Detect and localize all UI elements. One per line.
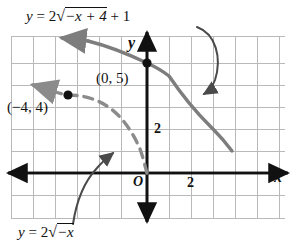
y-tick-2-label: 2 [154, 122, 161, 136]
equation-coefficient-parent: = 2 [28, 224, 48, 240]
graph-figure: y = 2√−x + 4 + 1 y = 2√−x (0, 5) (−4, 4)… [0, 0, 294, 251]
equation-coefficient: = 2 [36, 8, 56, 24]
origin-label: O [133, 175, 143, 189]
point-0-5 [142, 58, 151, 67]
pointer-top-arrow [197, 27, 218, 94]
radical-bar-icon [65, 7, 107, 8]
x-axis-label: x [274, 169, 282, 185]
point-label-y-intercept: (0, 5) [96, 71, 129, 86]
radicand-text: −x + 4 [65, 7, 107, 24]
radical-sign-icon: √ [56, 7, 65, 24]
radical-bar-icon-parent [57, 223, 74, 224]
point-label-shift-reference: (−4, 4) [7, 100, 48, 115]
equation-lhs-parent: y [18, 224, 25, 240]
equation-label-transformed: y = 2√−x + 4 + 1 [26, 7, 130, 24]
y-axis-label: y [128, 35, 135, 51]
curve-transformed-tail [62, 38, 88, 41]
equation-lhs: y [26, 8, 33, 24]
coordinate-plane [0, 0, 294, 251]
radicand-text-parent: −x [57, 223, 74, 240]
pointer-bottom-arrow [73, 153, 113, 224]
equation-label-parent: y = 2√−x [18, 223, 74, 240]
equation-tail: + 1 [111, 8, 131, 24]
radicand-group-parent: −x [57, 223, 74, 240]
point-neg4-4 [63, 90, 72, 99]
x-tick-2-label: 2 [187, 176, 194, 190]
radicand-group: −x + 4 [65, 7, 107, 24]
radical-sign-icon-parent: √ [48, 223, 57, 240]
curve-parent-tail [33, 85, 50, 90]
